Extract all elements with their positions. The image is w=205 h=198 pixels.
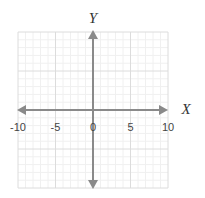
x-tick-label: -5 [51,121,61,133]
x-axis-label: X [180,101,191,117]
y-axis-label: Y [89,10,99,26]
coordinate-plane: Y X -10-50510 [0,0,205,198]
x-tick-label: 5 [127,121,133,133]
x-tick-labels: -10-50510 [10,121,174,133]
x-tick-label: 0 [90,121,96,133]
x-tick-label: -10 [10,121,26,133]
x-tick-label: 10 [162,121,174,133]
x-axis-right-arrow-icon [159,105,168,115]
y-axis-up-arrow-icon [88,30,98,39]
